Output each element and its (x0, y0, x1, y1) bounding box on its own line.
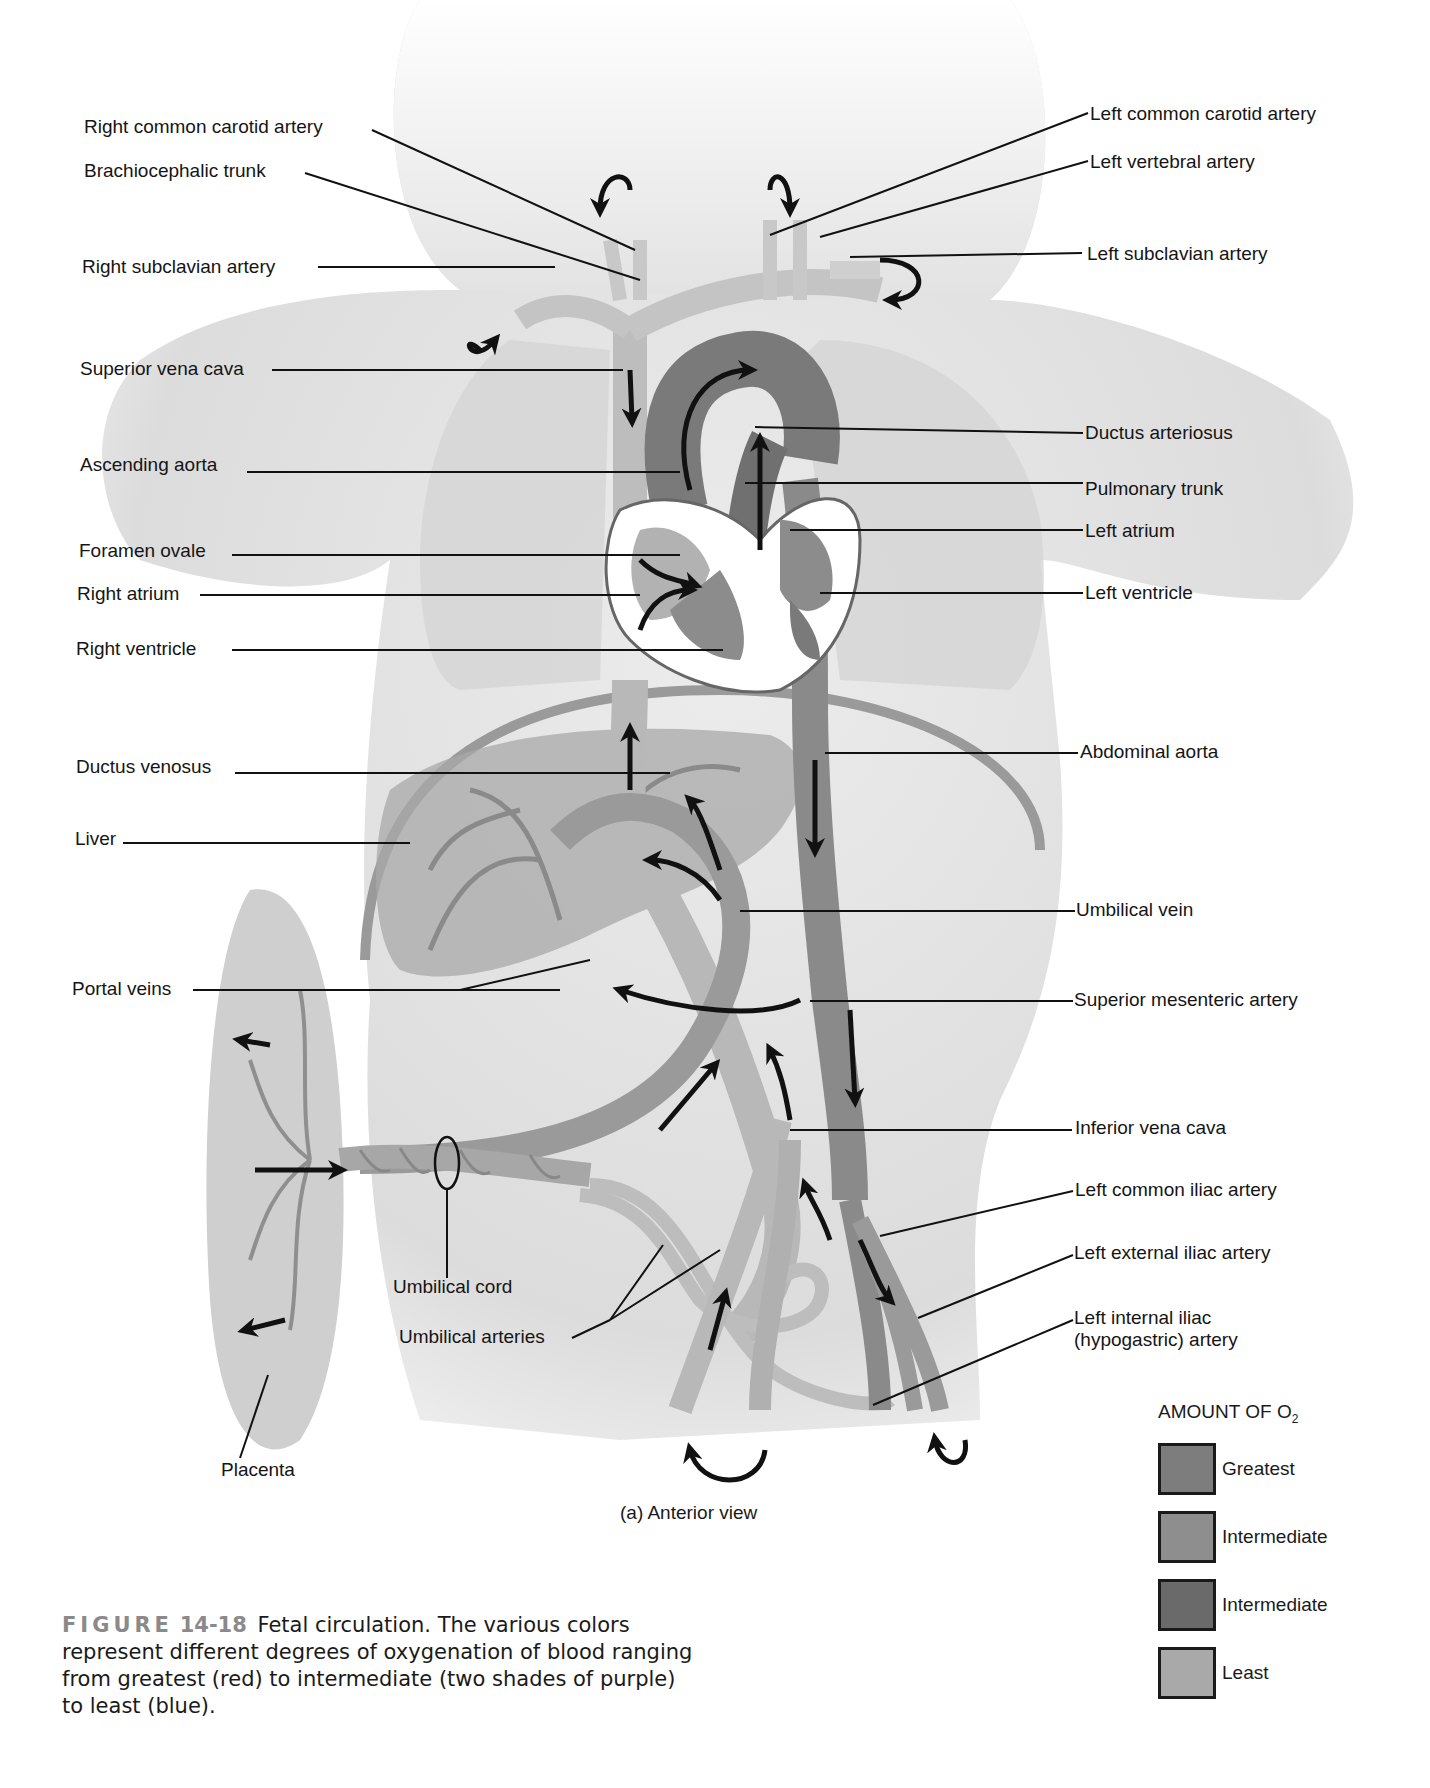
label-foramen-ovale: Foramen ovale (79, 540, 206, 562)
label-superior-mesenteric-artery: Superior mesenteric artery (1074, 989, 1298, 1011)
legend-label: Least (1222, 1662, 1268, 1684)
figure-number: 14-18 (180, 1613, 247, 1637)
label-right-atrium: Right atrium (77, 583, 179, 605)
label-ductus-venosus: Ductus venosus (76, 756, 211, 778)
legend-swatch (1158, 1511, 1216, 1563)
legend-title: AMOUNT OF O2 (1158, 1400, 1418, 1431)
label-brachiocephalic-trunk: Brachiocephalic trunk (84, 160, 266, 182)
label-right-ventricle: Right ventricle (76, 638, 196, 660)
label-abdominal-aorta: Abdominal aorta (1080, 741, 1218, 763)
legend-item-greatest: Greatest (1158, 1435, 1418, 1503)
legend-label: Intermediate (1222, 1526, 1328, 1548)
label-umbilical-vein: Umbilical vein (1076, 899, 1193, 921)
figure-word: FIGURE (62, 1613, 173, 1637)
label-left-common-carotid-artery: Left common carotid artery (1090, 103, 1316, 125)
oxygen-legend: AMOUNT OF O2 Greatest Intermediate Inter… (1158, 1400, 1418, 1707)
legend-swatch (1158, 1647, 1216, 1699)
legend-swatch (1158, 1443, 1216, 1495)
label-left-atrium: Left atrium (1085, 520, 1175, 542)
legend-swatch (1158, 1579, 1216, 1631)
label-left-ventricle: Left ventricle (1085, 582, 1193, 604)
label-right-common-carotid-artery: Right common carotid artery (84, 116, 323, 138)
legend-item-intermediate-2: Intermediate (1158, 1571, 1418, 1639)
figure-caption: FIGURE 14-18 Fetal circulation. The vari… (62, 1612, 702, 1720)
legend-item-least: Least (1158, 1639, 1418, 1707)
label-left-subclavian-artery: Left subclavian artery (1087, 243, 1268, 265)
label-superior-vena-cava: Superior vena cava (80, 358, 244, 380)
label-left-external-iliac-artery: Left external iliac artery (1074, 1242, 1270, 1264)
label-inferior-vena-cava: Inferior vena cava (1075, 1117, 1226, 1139)
label-right-subclavian-artery: Right subclavian artery (82, 256, 275, 278)
legend-label: Greatest (1222, 1458, 1295, 1480)
label-portal-veins: Portal veins (72, 978, 171, 1000)
label-ascending-aorta: Ascending aorta (80, 454, 217, 476)
label-left-internal-iliac-artery: Left internal iliac (hypogastric) artery (1074, 1307, 1304, 1351)
label-left-vertebral-artery: Left vertebral artery (1090, 151, 1255, 173)
label-ductus-arteriosus: Ductus arteriosus (1085, 422, 1233, 444)
legend-item-intermediate-1: Intermediate (1158, 1503, 1418, 1571)
label-umbilical-cord: Umbilical cord (393, 1276, 512, 1298)
label-liver: Liver (75, 828, 116, 850)
label-left-common-iliac-artery: Left common iliac artery (1075, 1179, 1277, 1201)
view-label: (a) Anterior view (620, 1502, 757, 1524)
label-pulmonary-trunk: Pulmonary trunk (1085, 478, 1223, 500)
label-umbilical-arteries: Umbilical arteries (399, 1326, 545, 1348)
legend-label: Intermediate (1222, 1594, 1328, 1616)
label-placenta: Placenta (221, 1459, 295, 1481)
